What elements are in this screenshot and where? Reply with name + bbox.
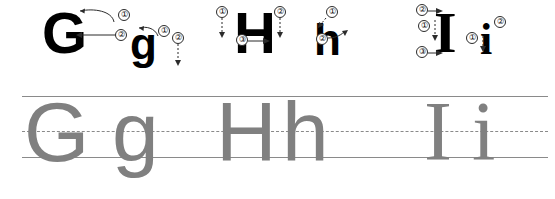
trace-letter-row: G g H h I i (0, 0, 555, 199)
ghost-glyph-lowercase-g: g (112, 90, 159, 174)
ghost-glyph-uppercase-G: G (24, 90, 89, 174)
ghost-glyph-lowercase-i: i (472, 90, 495, 174)
handwriting-worksheet: G ① ② g (0, 0, 555, 199)
ghost-glyph-uppercase-H: H (216, 90, 277, 174)
ghost-glyph-lowercase-h: h (282, 90, 329, 174)
ghost-glyph-uppercase-I: I (424, 90, 452, 174)
